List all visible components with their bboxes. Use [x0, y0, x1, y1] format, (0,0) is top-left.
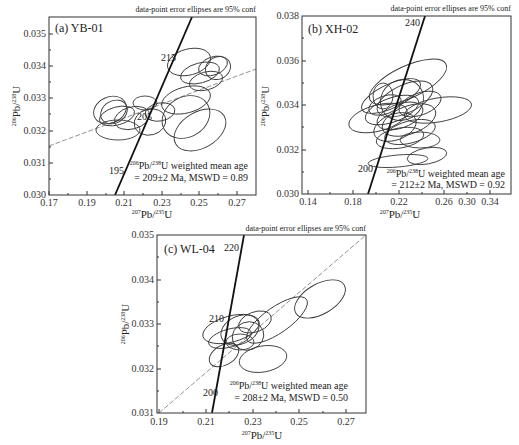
conf-note: data-point error ellipses are 95% conf — [135, 5, 256, 14]
result-line-2: = 209±2 Ma, MSWD = 0.89 — [134, 172, 248, 183]
conf-note: data-point error ellipses are 95% conf — [245, 224, 366, 233]
y-tick: 0.038 — [277, 10, 300, 21]
x-tick: 0.21 — [115, 197, 133, 208]
x-axis-title: 207Pb/235U — [380, 208, 421, 220]
panel-a: data-point error ellipses are 95% conf — [10, 5, 256, 220]
y-tick: 0.033 — [24, 92, 47, 103]
result-line-1: 206Pb/238U weighted mean age — [130, 160, 249, 171]
x-tick: 0.19 — [78, 197, 96, 208]
y-tick: 0.034 — [277, 99, 300, 110]
y-axis-title: 206Pb/238U — [119, 304, 131, 345]
x-tick: 0.34 — [481, 196, 499, 207]
y-tick: 0.031 — [24, 157, 47, 168]
y-tick: 0.034 — [24, 60, 47, 71]
y-tick: 0.032 — [24, 125, 47, 136]
y-tick: 0.030 — [277, 188, 300, 199]
panel-label: (c) WL-04 — [164, 242, 215, 256]
x-tick: 0.23 — [244, 416, 262, 427]
y-axis-title: 206Pb/238U — [259, 86, 271, 127]
x-tick: 0.18 — [344, 196, 362, 207]
concordia-figure: data-point error ellipses are 95% conf — [0, 0, 519, 445]
y-tick: 0.031 — [132, 407, 155, 418]
x-axis-title: 207Pb/235U — [242, 429, 283, 441]
x-axis-title: 207Pb/235U — [132, 208, 173, 220]
age-mark-240: 240 — [405, 17, 420, 28]
x-tick: 0.27 — [228, 197, 246, 208]
age-mark-195: 195 — [109, 165, 124, 176]
age-mark-220: 220 — [224, 242, 239, 253]
y-tick: 0.036 — [277, 55, 300, 66]
age-mark-205: 205 — [137, 111, 152, 122]
x-tick: 0.25 — [190, 197, 208, 208]
y-tick: 0.035 — [24, 28, 47, 39]
x-tick: 0.22 — [390, 196, 408, 207]
x-tick: 0.25 — [290, 416, 308, 427]
x-tick: 0.30 — [458, 196, 476, 207]
y-tick: 0.032 — [277, 144, 300, 155]
y-tick: 0.030 — [24, 189, 47, 200]
y-tick: 0.032 — [132, 363, 155, 374]
age-mark-200: 200 — [203, 387, 218, 398]
x-tick: 0.26 — [435, 196, 453, 207]
result-line-1: 206Pb/238U weighted mean age — [230, 380, 349, 391]
x-tick: 0.27 — [337, 416, 355, 427]
x-tick: 0.14 — [299, 196, 317, 207]
conf-note: data-point error ellipses are 95% conf — [390, 4, 511, 13]
age-mark-215: 215 — [161, 52, 176, 63]
panel-label: (a) YB-01 — [55, 21, 104, 35]
result-line-1: 206Pb/238U weighted mean age — [387, 168, 506, 179]
x-tick: 0.23 — [153, 197, 171, 208]
x-tick: 0.21 — [197, 416, 215, 427]
y-tick: 0.035 — [132, 229, 155, 240]
result-line-2: = 208±2 Ma, MSWD = 0.50 — [234, 392, 348, 403]
age-mark-200: 200 — [358, 163, 373, 174]
error-ellipses — [346, 50, 474, 170]
y-tick: 0.034 — [132, 274, 155, 285]
panel-b: data-point error ellipses are 95% conf — [259, 4, 511, 220]
age-mark-210: 210 — [209, 313, 224, 324]
panel-label: (b) XH-02 — [308, 22, 358, 36]
y-tick: 0.033 — [132, 318, 155, 329]
y-axis-title: 206Pb/238U — [10, 86, 22, 127]
panel-c: data-point error ellipses are 95% conf 2… — [119, 224, 366, 441]
result-line-2: = 212±2 Ma, MSWD = 0.92 — [391, 179, 505, 190]
